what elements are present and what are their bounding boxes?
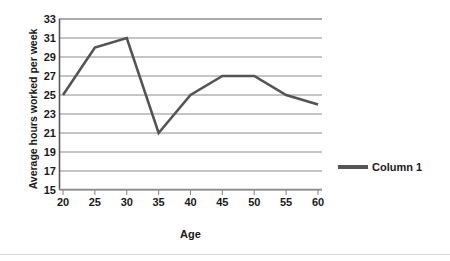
y-tick-label-31: 31 <box>30 33 56 43</box>
legend-swatch-column-1 <box>338 165 368 169</box>
y-tick-label-15: 15 <box>30 185 56 195</box>
y-tick-label-33: 33 <box>30 14 56 24</box>
x-tick-label-50: 50 <box>237 196 271 209</box>
x-tick-label-30: 30 <box>110 196 144 209</box>
x-axis-ticks <box>63 190 318 195</box>
legend-label-column-1: Column 1 <box>372 161 422 173</box>
line-chart: Average hours worked per week 1517192123… <box>0 0 450 261</box>
legend: Column 1 <box>338 161 422 173</box>
y-tick-label-25: 25 <box>30 90 56 100</box>
bottom-rule <box>0 254 450 255</box>
x-tick-label-45: 45 <box>205 196 239 209</box>
y-tick-label-21: 21 <box>30 128 56 138</box>
plot-area <box>59 19 322 190</box>
x-tick-label-35: 35 <box>142 196 176 209</box>
y-tick-label-29: 29 <box>30 52 56 62</box>
data-series-line-column-1 <box>63 38 318 133</box>
plot-svg <box>59 19 322 190</box>
y-tick-label-27: 27 <box>30 71 56 81</box>
x-tick-label-40: 40 <box>174 196 208 209</box>
x-tick-label-20: 20 <box>46 196 80 209</box>
y-tick-label-17: 17 <box>30 166 56 176</box>
y-tick-label-19: 19 <box>30 147 56 157</box>
gridlines <box>59 19 322 190</box>
x-tick-label-60: 60 <box>301 196 335 209</box>
x-axis-title: Age <box>59 228 322 240</box>
x-tick-label-55: 55 <box>269 196 303 209</box>
y-axis-tick-labels: 15171921232527293133 <box>30 14 56 190</box>
x-axis-tick-labels: 202530354045505560 <box>59 196 322 212</box>
x-tick-label-25: 25 <box>78 196 112 209</box>
y-tick-label-23: 23 <box>30 109 56 119</box>
